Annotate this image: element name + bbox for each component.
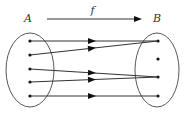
set-b-label: B (152, 12, 161, 25)
function-mapping-diagram: f A B (0, 0, 190, 115)
arrowhead-icon (88, 93, 96, 99)
arrowhead-icon (88, 45, 97, 52)
function-label: f (90, 4, 97, 17)
arrowhead-icon (88, 70, 96, 76)
arrowhead-icon (88, 38, 96, 44)
arrowhead-icon (134, 16, 142, 22)
set-a-label: A (23, 12, 32, 25)
arrowhead-icon (88, 76, 96, 82)
element-point (156, 57, 159, 60)
